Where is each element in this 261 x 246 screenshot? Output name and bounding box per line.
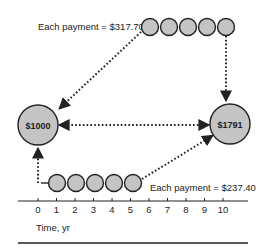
payment-circle	[68, 175, 85, 192]
tick-label: 3	[91, 204, 96, 215]
payment-circle	[125, 175, 142, 192]
future-value-label: $1791	[217, 120, 242, 130]
payment-circle	[49, 175, 66, 192]
tick-label: 8	[183, 204, 188, 215]
axis-title: Time, yr	[36, 222, 70, 233]
payment-circle	[180, 19, 197, 36]
payment-circle	[106, 175, 123, 192]
arrow-top-to-present	[60, 32, 141, 108]
tick-label: 0	[35, 204, 40, 215]
tick-label: 1	[54, 204, 59, 215]
payment-circle	[218, 19, 235, 36]
payment-circle	[87, 175, 104, 192]
payment-circle	[142, 19, 159, 36]
tick-label: 6	[146, 204, 151, 215]
payment-circle	[199, 19, 216, 36]
top-payment-label: Each payment = $317.70	[38, 21, 144, 32]
cash-flow-diagram: Each payment = $317.70 $1000 $1791 Each …	[0, 0, 261, 246]
arrow-bottom-to-future	[142, 136, 212, 179]
time-axis: 0 1 2 3 4 5 6 7 8 9 10 Time, yr	[18, 198, 248, 233]
payment-circle	[161, 19, 178, 36]
tick-label: 10	[218, 204, 229, 215]
present-value-node: $1000	[18, 105, 58, 145]
tick-label: 4	[109, 204, 114, 215]
tick-label: 2	[72, 204, 77, 215]
tick-label: 7	[165, 204, 170, 215]
tick-label: 5	[128, 204, 133, 215]
tick-label: 9	[202, 204, 207, 215]
present-value-label: $1000	[25, 121, 50, 131]
future-value-node: $1791	[210, 104, 250, 144]
bottom-payment-label: Each payment = $237.40	[150, 182, 256, 193]
bottom-payment-series	[49, 175, 142, 192]
top-payment-series	[142, 19, 235, 36]
